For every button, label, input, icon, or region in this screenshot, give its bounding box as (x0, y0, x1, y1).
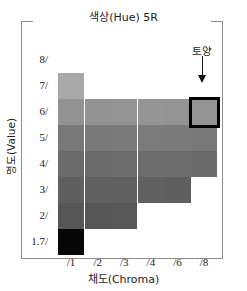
swatch-value-6-chroma-3[interactable] (111, 99, 137, 125)
frame-corner-top-left (21, 21, 33, 22)
swatch-value-4-chroma-4[interactable] (138, 151, 164, 177)
swatch-value-6-chroma-1[interactable] (58, 99, 84, 125)
x-tick-chroma-1: /1 (56, 256, 86, 268)
swatch-value-4-chroma-8[interactable] (191, 151, 217, 177)
swatch-value-6-chroma-2[interactable] (85, 99, 111, 125)
swatch-value-6-chroma-4[interactable] (138, 99, 164, 125)
swatch-value-6-chroma-6[interactable] (164, 99, 190, 125)
x-tick-chroma-3: /3 (109, 256, 139, 268)
swatch-value-1.7-chroma-1[interactable] (58, 229, 84, 255)
swatch-value-3-chroma-1[interactable] (58, 177, 84, 203)
x-tick-chroma-6: /6 (163, 256, 193, 268)
y-tick-5: 5/ (14, 131, 48, 143)
y-tick-6: 6/ (14, 105, 48, 117)
swatch-value-5-chroma-1[interactable] (58, 125, 84, 151)
swatch-value-4-chroma-1[interactable] (58, 151, 84, 177)
swatch-value-3-chroma-2[interactable] (85, 177, 111, 203)
swatch-grid (58, 47, 218, 255)
swatch-value-4-chroma-3[interactable] (111, 151, 137, 177)
x-tick-chroma-2: /2 (83, 256, 113, 268)
swatch-value-4-chroma-6[interactable] (164, 151, 190, 177)
swatch-value-2-chroma-2[interactable] (85, 203, 111, 229)
swatch-value-5-chroma-2[interactable] (85, 125, 111, 151)
munsell-color-chart: 색상(Hue) 5R 명도(Value) 채도(Chroma) 8/7/6/5/… (0, 0, 247, 291)
x-tick-chroma-8: /8 (189, 256, 219, 268)
y-tick-1-7: 1.7/ (14, 235, 48, 247)
swatch-value-5-chroma-6[interactable] (164, 125, 190, 151)
down-arrow-icon (198, 75, 206, 83)
x-axis-title: 채도(Chroma) (0, 270, 247, 286)
swatch-value-4-chroma-2[interactable] (85, 151, 111, 177)
y-tick-8: 8/ (14, 53, 48, 65)
frame-corner-top-right (211, 21, 223, 22)
swatch-value-5-chroma-8[interactable] (191, 125, 217, 151)
x-tick-chroma-4: /4 (136, 256, 166, 268)
swatch-value-2-chroma-1[interactable] (58, 203, 84, 229)
swatch-value-6-chroma-8[interactable] (189, 97, 220, 128)
swatch-value-2-chroma-3[interactable] (111, 203, 137, 229)
y-tick-2: 2/ (14, 209, 48, 221)
y-tick-7: 7/ (14, 79, 48, 91)
swatch-value-3-chroma-6[interactable] (164, 177, 190, 203)
swatch-value-5-chroma-3[interactable] (111, 125, 137, 151)
swatch-value-7-chroma-1[interactable] (58, 73, 84, 99)
y-tick-4: 4/ (14, 157, 48, 169)
swatch-value-5-chroma-4[interactable] (138, 125, 164, 151)
swatch-value-3-chroma-4[interactable] (138, 177, 164, 203)
y-tick-3: 3/ (14, 183, 48, 195)
swatch-value-3-chroma-3[interactable] (111, 177, 137, 203)
